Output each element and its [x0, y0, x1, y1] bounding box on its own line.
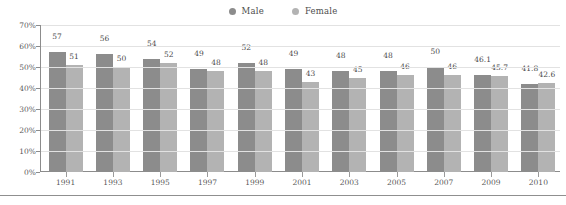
legend-item-female[interactable]: Female [292, 6, 338, 16]
bar-group: 5046 [427, 25, 461, 172]
bar-male[interactable] [521, 84, 538, 172]
x-axis-tick-label: 1993 [103, 178, 122, 187]
grouped-bar-chart: Male Female 0%10%20%30%40%50%60%70% 5751… [0, 0, 566, 205]
bar-group: 4948 [190, 25, 224, 172]
bar-female[interactable] [444, 75, 461, 172]
bar-value-label: 48 [383, 51, 393, 60]
circle-dot-icon [292, 8, 299, 15]
bar-value-label: 48 [258, 58, 268, 67]
bar-value-label: 45 [353, 65, 363, 74]
x-axis-tick [66, 172, 67, 177]
y-axis-tick-label: 20% [19, 126, 36, 135]
bar-value-label: 43 [306, 69, 316, 78]
bar-value-label: 42.6 [539, 70, 556, 79]
circle-dot-icon [229, 8, 236, 15]
x-axis-tick-label: 1991 [56, 178, 75, 187]
bar-group: 41.842.6 [521, 25, 555, 172]
gridline [41, 88, 560, 89]
x-axis-tick-label: 2007 [434, 178, 453, 187]
y-axis-tick-label: 0% [24, 168, 36, 177]
chart-legend: Male Female [0, 3, 566, 19]
y-axis-tick [36, 109, 40, 110]
bar-female[interactable] [255, 71, 272, 172]
x-axis-tick [207, 172, 208, 177]
gridline [41, 67, 560, 68]
y-axis-tick-label: 60% [19, 42, 36, 51]
bar-male[interactable] [427, 67, 444, 172]
y-axis-tick [36, 25, 40, 26]
bar-value-label: 57 [52, 32, 62, 41]
bar-male[interactable] [474, 75, 491, 172]
bar-male[interactable] [190, 69, 207, 172]
x-axis-tick-label: 2005 [387, 178, 406, 187]
bar-female[interactable] [302, 82, 319, 172]
bar-group: 4845 [332, 25, 366, 172]
bar-male[interactable] [96, 54, 113, 172]
bar-value-label: 52 [164, 50, 174, 59]
y-axis-tick-label: 50% [19, 63, 36, 72]
gridline [41, 130, 560, 131]
gridline [41, 46, 560, 47]
bar-male[interactable] [332, 71, 349, 172]
bar-value-label: 49 [194, 49, 204, 58]
x-axis-tick-label: 1997 [198, 178, 217, 187]
legend-label-female: Female [305, 6, 338, 16]
y-axis-tick [36, 151, 40, 152]
y-axis-tick-label: 10% [19, 147, 36, 156]
x-axis-tick [538, 172, 539, 177]
bar-male[interactable] [143, 59, 160, 172]
bar-female[interactable] [349, 78, 366, 173]
x-axis-labels: 1991199319951997199920012003200520072009… [40, 178, 560, 192]
x-axis-tick-label: 2010 [529, 178, 548, 187]
gridline [41, 25, 560, 26]
bar-female[interactable] [207, 71, 224, 172]
y-axis-tick-label: 30% [19, 105, 36, 114]
bar-group: 4943 [285, 25, 319, 172]
y-axis-tick [36, 130, 40, 131]
bar-value-label: 51 [69, 52, 79, 61]
bar-female[interactable] [113, 67, 130, 172]
bar-female[interactable] [397, 75, 414, 172]
y-axis-tick [36, 88, 40, 89]
bar-male[interactable] [285, 69, 302, 172]
y-axis-labels: 0%10%20%30%40%50%60%70% [0, 25, 36, 172]
x-axis-tick [397, 172, 398, 177]
bar-female[interactable] [66, 65, 83, 172]
bar-male[interactable] [238, 63, 255, 172]
bar-group: 4846 [380, 25, 414, 172]
bar-value-label: 50 [431, 47, 441, 56]
x-axis-tick-label: 2001 [292, 178, 311, 187]
x-axis-tick-label: 2003 [340, 178, 359, 187]
bar-group: 5751 [49, 25, 83, 172]
y-axis-tick-label: 70% [19, 21, 36, 30]
x-axis-tick [160, 172, 161, 177]
bar-value-label: 41.8 [522, 64, 539, 73]
bars-layer: 57515650545249485248494348454846504646.1… [40, 25, 560, 172]
bar-female[interactable] [538, 83, 555, 172]
bar-female[interactable] [160, 63, 177, 172]
bar-group: 5452 [143, 25, 177, 172]
bar-value-label: 48 [336, 51, 346, 60]
y-axis-tick-label: 40% [19, 84, 36, 93]
gridline [41, 109, 560, 110]
x-axis-tick [444, 172, 445, 177]
bar-group: 5650 [96, 25, 130, 172]
bar-value-label: 46.1 [474, 55, 491, 64]
bar-group: 5248 [238, 25, 272, 172]
bar-female[interactable] [491, 76, 508, 172]
bar-male[interactable] [380, 71, 397, 172]
bottom-divider [0, 195, 566, 196]
gridline [41, 151, 560, 152]
x-axis-tick-label: 2009 [482, 178, 501, 187]
x-axis-tick-label: 1995 [151, 178, 170, 187]
bar-group: 46.145.7 [474, 25, 508, 172]
bar-value-label: 49 [289, 49, 299, 58]
x-axis-tick [349, 172, 350, 177]
bar-male[interactable] [49, 52, 66, 172]
y-axis-tick [36, 172, 40, 173]
bar-value-label: 50 [117, 54, 127, 63]
bar-value-label: 52 [241, 43, 251, 52]
plot-area: 57515650545249485248494348454846504646.1… [40, 25, 560, 172]
bar-value-label: 48 [211, 58, 221, 67]
legend-item-male[interactable]: Male [229, 6, 264, 16]
